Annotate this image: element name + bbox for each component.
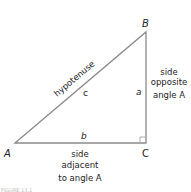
- vertex-a-label: A: [3, 148, 11, 159]
- right-angle-marker: [140, 137, 146, 143]
- adjacent-desc-line-2: adjacent: [62, 160, 99, 170]
- adjacent-desc-line-3: to angle A: [58, 173, 102, 183]
- figure-caption: FIGURE 13.1: [1, 187, 32, 192]
- opposite-desc-line-2: opposite: [151, 77, 188, 87]
- right-triangle-diagram: A B C c a b hypotenuse side opposite ang…: [0, 0, 191, 192]
- vertex-c-label: C: [142, 148, 149, 159]
- opposite-desc-line-3: angle A: [153, 90, 185, 100]
- vertex-b-label: B: [142, 18, 149, 29]
- side-c-label: c: [83, 88, 88, 98]
- opposite-desc-line-1: side: [160, 67, 177, 77]
- side-b-label: b: [81, 131, 87, 141]
- adjacent-desc-line-1: side: [71, 149, 88, 159]
- triangle-outline: [15, 32, 146, 143]
- side-a-label: a: [136, 87, 142, 97]
